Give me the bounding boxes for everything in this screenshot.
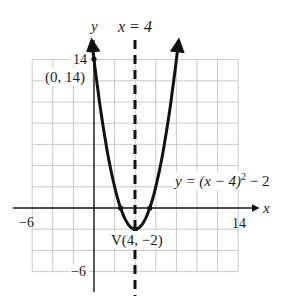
axis-of-symmetry-label: x = 4 — [117, 18, 152, 35]
y-max-tick-label: 14 — [73, 52, 87, 67]
y-min-tick-label: −6 — [71, 264, 86, 279]
x-intercept-point-right — [147, 205, 152, 210]
x-max-tick-label: 14 — [232, 216, 246, 231]
equation-label: y = (x − 4)2 − 2 — [173, 171, 270, 190]
vertex-label: V(4, −2) — [111, 232, 163, 249]
y-intercept-label: (0, 14) — [45, 69, 85, 86]
parabola-graph: y x x = 4 −6 14 14 −6 (0, 14) V(4, −2) y… — [0, 0, 300, 296]
x-min-tick-label: −6 — [19, 215, 34, 230]
x-intercept-point-left — [118, 205, 123, 210]
y-axis-label: y — [89, 18, 98, 34]
y-intercept-point — [91, 56, 96, 61]
x-axis-label: x — [262, 200, 270, 216]
